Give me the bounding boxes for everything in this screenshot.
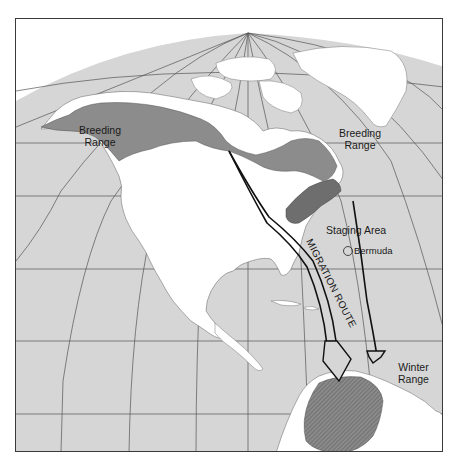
breeding-range-east-label: Breeding Range	[339, 127, 381, 151]
winter-range-label: Winter Range	[398, 361, 429, 385]
map-frame: Breeding Range Breeding Range Staging Ar…	[15, 18, 443, 452]
bermuda-label: Bermuda	[354, 245, 393, 257]
staging-area-label: Staging Area	[326, 224, 386, 236]
breeding-range-west-label: Breeding Range	[79, 124, 121, 148]
